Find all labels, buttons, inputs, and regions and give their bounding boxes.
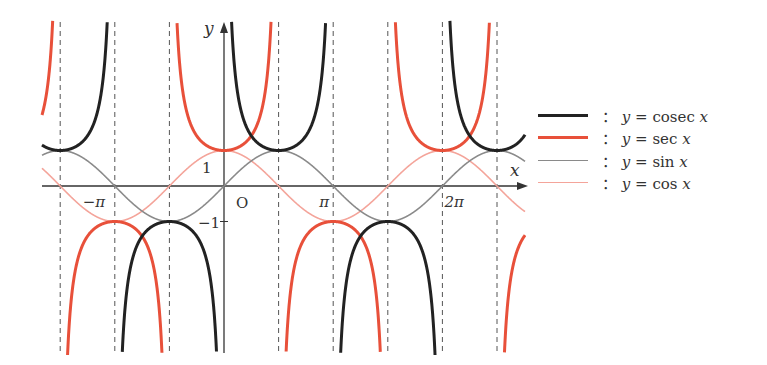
legend-item-sin: ： y = sin x <box>538 149 708 172</box>
legend-swatch-sin <box>538 160 588 161</box>
legend-swatch-cos <box>538 182 588 183</box>
legend-label-sin: ： y = sin x <box>602 150 688 171</box>
legend-swatch-cosec <box>538 114 588 117</box>
legend-item-cosec: ： y = cosec x <box>538 104 708 127</box>
legend-label-sec: ： y = sec x <box>602 127 691 148</box>
x-axis-arrow-icon <box>517 182 528 190</box>
y-tick-1: 1 <box>202 159 212 177</box>
legend-item-sec: ： y = sec x <box>538 127 708 150</box>
y-axis-label: y <box>203 18 214 38</box>
y-axis-arrow-icon <box>220 22 228 33</box>
x-tick-minus-pi: −π <box>83 193 107 211</box>
legend-item-cos: ： y = cos x <box>538 172 708 195</box>
x-tick-pi: π <box>318 193 330 211</box>
y-tick-minus-1: −1 <box>198 214 220 232</box>
axis-labels: O1−1−ππ2πxy <box>83 18 520 232</box>
legend-label-cosec: ： y = cosec x <box>602 105 708 126</box>
legend-swatch-sec <box>538 136 588 139</box>
origin-label: O <box>236 194 248 212</box>
x-axis-label: x <box>510 160 520 180</box>
legend-label-cos: ： y = cos x <box>602 172 691 193</box>
trig-graph: O1−1−ππ2πxy <box>0 0 530 365</box>
legend: ： y = cosec x ： y = sec x ： y = sin x ： … <box>538 104 708 194</box>
x-tick-2pi: 2π <box>443 193 465 211</box>
